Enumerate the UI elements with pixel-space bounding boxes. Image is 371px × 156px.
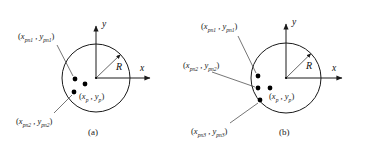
- y-sub: pn2: [41, 122, 49, 128]
- x-sub: pn3: [198, 132, 206, 138]
- point-3: [72, 90, 77, 95]
- x-sub: pn2: [23, 122, 31, 128]
- paren-close: ): [50, 116, 53, 126]
- figure-a: y x R (xp , yp) (xpn1 , ypn1) (xpn2 , yp…: [0, 0, 186, 156]
- figure-caption-a: (a): [88, 128, 98, 137]
- y-axis-label: y: [292, 18, 296, 28]
- point-4: [258, 98, 263, 103]
- point-label-pn3: (xpn3 , ypn3): [191, 127, 227, 136]
- paren-close: ): [291, 91, 294, 101]
- y-sub: pn2: [208, 66, 216, 72]
- radius-label: R: [116, 62, 122, 72]
- x-axis-label: x: [332, 64, 336, 74]
- y-sub: pn1: [226, 27, 234, 33]
- x-sub: pn2: [190, 66, 198, 72]
- figure-caption-b: (b): [279, 128, 290, 137]
- leader-line-pn1: [238, 36, 256, 73]
- point-2: [83, 82, 88, 87]
- point-label-pn2: (xpn2 , ypn2): [16, 117, 52, 126]
- radius-label: R: [306, 61, 312, 71]
- paren-close: ): [101, 91, 104, 101]
- leader-line-pn1: [57, 45, 73, 76]
- leader-line-pn2: [54, 95, 72, 113]
- paren-close: ): [235, 21, 238, 31]
- y-sub: pn1: [43, 37, 51, 43]
- point-label-pn2: (xpn2 , ypn2): [183, 61, 219, 70]
- point-label-pn1: (xpn1 , ypn1): [18, 32, 54, 41]
- y-axis-label: y: [102, 20, 106, 30]
- paren-close: ): [52, 31, 55, 41]
- point-1: [73, 77, 78, 82]
- center-point: [285, 77, 287, 79]
- y-sub: pn3: [216, 132, 224, 138]
- leader-line-pn2: [212, 72, 255, 87]
- point-1: [256, 74, 261, 79]
- center-point: [95, 77, 97, 79]
- paren-close: ): [225, 126, 228, 136]
- figure-b: y x R (xp , yp) (xpn1 , ypn1) (xpn2 , yp…: [185, 0, 371, 156]
- leader-line-pn3: [230, 103, 258, 123]
- x-axis-label: x: [140, 64, 144, 74]
- center-coordinate-label: (xp , yp): [79, 92, 104, 101]
- diagram-canvas: y x R (xp , yp) (xpn1 , ypn1) (xpn2 , yp…: [0, 0, 371, 156]
- x-sub: pn1: [25, 37, 33, 43]
- point-label-pn1: (xpn1 , ypn1): [201, 22, 237, 31]
- point-2: [256, 86, 261, 91]
- center-coordinate-label: (xp , yp): [269, 92, 294, 101]
- x-sub: pn1: [208, 27, 216, 33]
- paren-close: ): [217, 60, 220, 70]
- point-3: [268, 86, 273, 91]
